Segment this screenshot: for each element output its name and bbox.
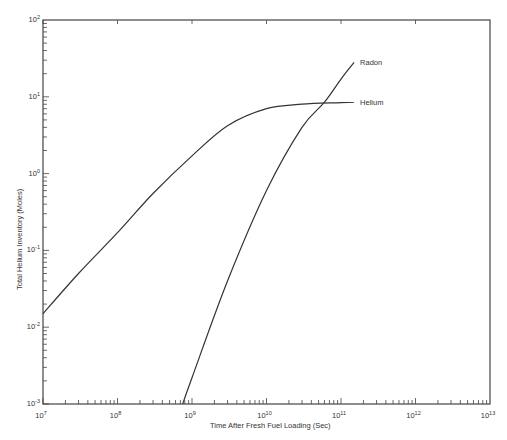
y-tick-label: 101: [29, 91, 40, 101]
y-tick-label: 10-3: [27, 398, 40, 408]
chart: 1071081091010101110121013 10-310-210-110…: [0, 0, 507, 440]
x-tick-label: 1010: [257, 410, 271, 420]
x-tick-label: 1013: [481, 410, 495, 420]
y-axis-title: Total Helium Inventory (Moles): [15, 188, 24, 290]
plot-frame: [43, 20, 490, 404]
y-tick-label: 10-2: [27, 321, 40, 331]
x-axis-ticks: [43, 20, 487, 404]
x-axis-tick-labels: 1071081091010101110121013: [35, 410, 495, 420]
y-axis-ticks: [43, 24, 49, 404]
series-label-helium: Helium: [360, 98, 383, 107]
series-lines: [43, 63, 354, 405]
x-tick-label: 109: [184, 410, 195, 420]
series-label-radon: Radon: [360, 58, 382, 67]
series-line-helium: [43, 102, 354, 314]
series-line-radon: [183, 63, 354, 405]
y-tick-label: 100: [29, 168, 40, 178]
x-tick-label: 1012: [406, 410, 420, 420]
y-axis-tick-labels: 10-310-210-1100101102: [27, 14, 40, 408]
x-axis-title: Time After Fresh Fuel Loading (Sec): [210, 421, 331, 430]
y-tick-label: 10-1: [27, 244, 40, 254]
y-tick-label: 102: [29, 14, 40, 24]
x-tick-label: 1011: [332, 410, 346, 420]
x-tick-label: 107: [35, 410, 46, 420]
series-labels: HeliumRadon: [360, 58, 383, 107]
x-tick-label: 108: [110, 410, 121, 420]
